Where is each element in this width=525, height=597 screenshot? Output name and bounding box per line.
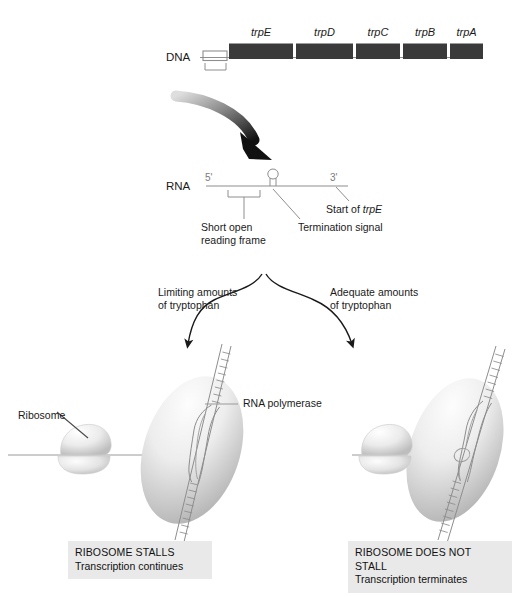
rna-polymerase-label: RNA polymerase	[243, 397, 322, 410]
gene-label-trpD: trpD	[296, 26, 353, 38]
caption-left-subtitle: Transcription continues	[75, 560, 205, 574]
gene-box-trpC	[356, 44, 400, 60]
dna-row	[200, 44, 483, 71]
gene-label-trpE: trpE	[229, 26, 293, 38]
short-orf-label: Short open reading frame	[201, 221, 266, 247]
branch-label-left: Limiting amounts of tryptophan	[158, 286, 237, 312]
start-of-trpe-prefix: Start of	[326, 203, 363, 215]
left-panel	[8, 344, 261, 542]
gene-label-trpC: trpC	[356, 26, 400, 38]
gene-label-trpA: trpA	[450, 26, 483, 38]
gene-box-trpE	[229, 44, 293, 60]
diagram-canvas: DNA trpE trpD trpC trpB trpA RNA 5' 3' S…	[0, 0, 525, 597]
branch-label-right: Adequate amounts of tryptophan	[330, 286, 418, 312]
five-prime-label: 5'	[205, 172, 212, 183]
right-panel	[352, 346, 521, 543]
caption-right-subtitle: Transcription terminates	[355, 573, 505, 587]
caption-left-title: RIBOSOME STALLS	[75, 546, 205, 560]
ribosome-label: Ribosome	[18, 409, 65, 422]
diagram-vector-layer	[0, 0, 525, 597]
three-prime-label: 3'	[330, 172, 337, 183]
caption-box-right: RIBOSOME DOES NOT STALL Transcription te…	[348, 541, 512, 593]
caption-right-title: RIBOSOME DOES NOT STALL	[355, 546, 505, 573]
rna-polymerase-left	[123, 363, 261, 537]
transcription-arrow	[176, 96, 272, 160]
gene-box-trpA	[450, 44, 483, 60]
start-of-trpe-gene: trpE	[363, 203, 382, 215]
gene-label-trpB: trpB	[403, 26, 447, 38]
gene-box-trpD	[296, 44, 353, 60]
start-of-trpe-label: Start of trpE	[326, 203, 382, 216]
promoter-box	[203, 51, 227, 61]
rna-row-label: RNA	[166, 179, 190, 193]
ribosome-left	[58, 424, 111, 474]
gene-box-trpB	[403, 44, 447, 60]
caption-box-left: RIBOSOME STALLS Transcription continues	[68, 541, 212, 579]
termination-signal-label: Termination signal	[298, 221, 383, 234]
ribosome-right	[359, 424, 412, 474]
dna-row-label: DNA	[166, 50, 190, 64]
